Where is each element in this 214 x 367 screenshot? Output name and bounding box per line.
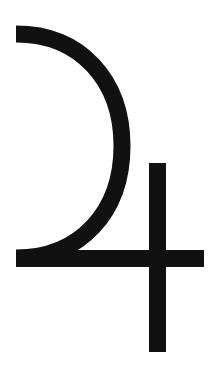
jupiter-symbol-icon: Jupiter symbol [0, 0, 214, 367]
symbol-vertical-bar [149, 163, 166, 352]
symbol-arc [16, 34, 122, 258]
symbol-horizontal-bar [16, 250, 204, 267]
